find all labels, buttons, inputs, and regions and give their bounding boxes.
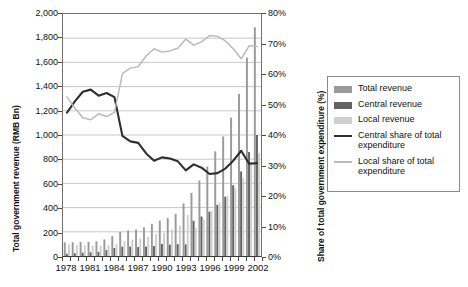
- bar: [232, 185, 234, 256]
- y2-axis-tick-label: 40%: [268, 130, 286, 140]
- bar: [113, 248, 115, 256]
- bar-group: [88, 242, 94, 256]
- chart-figure: Total government revenue (RMB Bn) 020040…: [0, 0, 468, 287]
- bar-group: [127, 230, 133, 256]
- bar-group: [183, 203, 189, 256]
- bar-group: [246, 58, 252, 256]
- bar-group: [175, 214, 181, 256]
- bar: [161, 244, 163, 256]
- bar: [103, 239, 105, 256]
- x-axis-tick-label: 1999: [223, 262, 244, 273]
- y-axis-tick: [58, 159, 62, 160]
- bar: [84, 245, 86, 256]
- x-axis-tick: [190, 257, 191, 261]
- bar: [254, 27, 256, 256]
- x-axis-tick-label: 1978: [55, 262, 76, 273]
- y-axis-tick-label: 1,000: [35, 130, 58, 140]
- bar: [169, 245, 171, 256]
- legend-item[interactable]: Total revenue: [334, 83, 455, 94]
- y-axis-tick: [58, 135, 62, 136]
- bar: [92, 246, 94, 256]
- x-axis-tick: [134, 257, 135, 261]
- bar: [226, 196, 228, 256]
- bar: [129, 247, 131, 256]
- x-axis-tick: [94, 257, 95, 261]
- x-axis-tick: [110, 257, 111, 261]
- bar-group: [206, 166, 212, 256]
- legend-bar-swatch: [334, 86, 352, 93]
- bar: [135, 229, 137, 256]
- y-axis-tick-label: 1,400: [35, 81, 58, 91]
- x-axis-tick-label: 1996: [199, 262, 220, 273]
- bar: [216, 205, 218, 256]
- y-axis-tick: [58, 257, 62, 258]
- x-axis-tick: [102, 257, 103, 261]
- bar: [242, 178, 244, 256]
- x-axis-tick: [206, 257, 207, 261]
- bar-group: [151, 224, 157, 256]
- plot-area: [62, 13, 262, 257]
- bar: [234, 188, 236, 256]
- y2-axis-tick-label: 70%: [268, 39, 286, 49]
- bar: [187, 215, 189, 256]
- bar: [250, 162, 252, 256]
- x-axis-tick-label: 1981: [79, 262, 100, 273]
- bar: [139, 238, 141, 256]
- bar: [222, 136, 224, 256]
- bar: [185, 244, 187, 256]
- x-axis-tick: [126, 257, 127, 261]
- bar: [159, 221, 161, 256]
- y-axis-tick-label: 200: [43, 228, 58, 238]
- bar: [167, 218, 169, 256]
- bar: [119, 232, 121, 256]
- y2-axis-tick: [262, 13, 266, 14]
- line-series: [67, 35, 257, 119]
- x-axis-tick: [78, 257, 79, 261]
- line-series: [67, 90, 257, 174]
- bar: [177, 244, 179, 256]
- bar: [121, 247, 123, 256]
- bar: [155, 234, 157, 256]
- x-axis-tick-labels: 197819811984198719901993199619992002: [0, 262, 468, 276]
- x-axis-tick-label: 1993: [175, 262, 196, 273]
- bar: [171, 229, 173, 256]
- x-axis-tick: [238, 257, 239, 261]
- y2-axis-tick: [262, 196, 266, 197]
- y2-axis-tick: [262, 105, 266, 106]
- bar-group: [191, 193, 197, 256]
- y-axis-tick-label: 800: [43, 154, 58, 164]
- y2-axis-tick: [262, 166, 266, 167]
- bar: [116, 244, 118, 256]
- x-axis-tick: [222, 257, 223, 261]
- bar: [100, 246, 102, 256]
- bar-group: [214, 151, 220, 256]
- legend-item[interactable]: Local share of total expenditure: [334, 156, 455, 177]
- legend-item[interactable]: Central share of total expenditure: [334, 130, 455, 151]
- y2-axis-tick: [262, 227, 266, 228]
- bar: [163, 233, 165, 256]
- x-axis-tick: [150, 257, 151, 261]
- bar: [238, 94, 240, 256]
- bar: [153, 246, 155, 256]
- y2-axis-tick-label: 30%: [268, 161, 286, 171]
- y-axis-tick-label: 2,000: [35, 8, 58, 18]
- y-axis-tick: [58, 13, 62, 14]
- legend-label: Local revenue: [358, 114, 415, 125]
- bar-group: [64, 242, 70, 256]
- x-axis-tick: [174, 257, 175, 261]
- bar: [64, 242, 66, 256]
- y2-axis-tick-label: 10%: [268, 222, 286, 232]
- bar: [131, 240, 133, 256]
- y2-axis-tick: [262, 257, 266, 258]
- bar-group: [119, 232, 125, 256]
- y2-axis-tick-label: 60%: [268, 69, 286, 79]
- bar: [143, 227, 145, 256]
- bar-group: [254, 27, 260, 256]
- bar: [90, 252, 92, 256]
- bar: [256, 135, 258, 256]
- bar: [175, 214, 177, 256]
- legend-item[interactable]: Central revenue: [334, 99, 455, 110]
- legend-item[interactable]: Local revenue: [334, 114, 455, 125]
- bar: [211, 211, 213, 256]
- bar-group: [198, 180, 204, 256]
